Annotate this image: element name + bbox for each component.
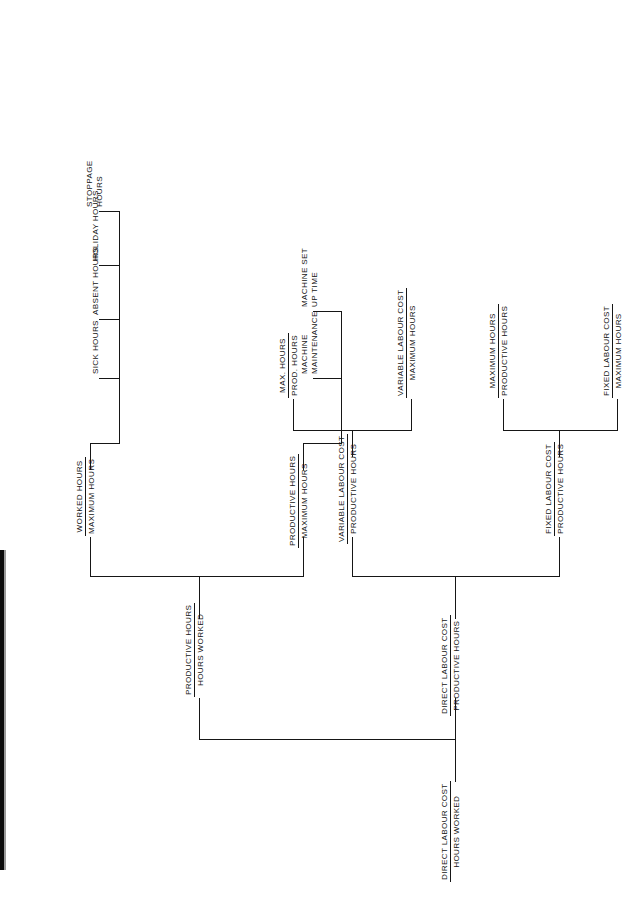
connector-fixed-to-max-prod bbox=[503, 399, 504, 431]
node-fixed-max-denominator: MAXIMUM HOURS bbox=[613, 304, 624, 398]
node-direct-productive-numerator: DIRECT LABOUR COST bbox=[440, 615, 451, 716]
leaf-machine-maintenance-line1: MACHINE bbox=[300, 311, 310, 374]
connector-worked-hours-bus bbox=[90, 443, 119, 444]
connector-fixed-to-fixed-max bbox=[617, 399, 618, 431]
leaf-machine-maintenance-line2: MAINTENANCE bbox=[310, 311, 320, 374]
node-fixed-productive-denominator: PRODUCTIVE HOURS bbox=[555, 442, 566, 536]
node-productive-hours-denominator: HOURS WORKED bbox=[195, 603, 206, 697]
connector-root-bus bbox=[199, 739, 456, 740]
node-variable-labour-cost-productive-hours[interactable]: VARIABLE LABOUR COST PRODUCTIVE HOURS bbox=[337, 434, 359, 544]
connector-variable-to-var-max bbox=[411, 399, 412, 431]
connector-productive-to-worked-hours bbox=[90, 537, 91, 577]
node-root-direct-labour-cost-hours-worked[interactable]: DIRECT LABOUR COST HOURS WORKED bbox=[440, 781, 462, 882]
connector-productive-bus bbox=[90, 576, 304, 577]
node-worked-hours-maximum-hours[interactable]: WORKED HOURS MAXIMUM HOURS bbox=[75, 457, 97, 536]
leaf-stoppage-hours-line2: HOURS bbox=[95, 160, 105, 207]
connector-leaf-absent-hours bbox=[99, 319, 120, 320]
connector-productive-max-bus bbox=[303, 443, 341, 444]
node-productive-max-numerator: PRODUCTIVE HOURS bbox=[288, 454, 299, 548]
connector-leaf-holiday-hours bbox=[99, 265, 120, 266]
node-direct-productive-denominator: PRODUCTIVE HOURS bbox=[451, 615, 462, 716]
connector-fixed-bus bbox=[503, 430, 618, 431]
leaf-sick-hours[interactable]: SICK HOURS bbox=[91, 320, 101, 374]
connector-leaf-sick-hours bbox=[99, 378, 120, 379]
node-root-numerator: DIRECT LABOUR COST bbox=[440, 781, 451, 882]
leaf-sick-hours-line1: SICK HOURS bbox=[91, 320, 101, 374]
node-variable-max-numerator: VARIABLE LABOUR COST bbox=[396, 288, 407, 398]
connector-worked-hours-rail bbox=[119, 212, 120, 444]
leaf-stoppage-hours-line1: STOPPAGE bbox=[85, 160, 95, 207]
node-fixed-labour-cost-maximum-hours[interactable]: FIXED LABOUR COST MAXIMUM HOURS bbox=[602, 304, 624, 398]
connector-direct-to-fixed bbox=[559, 537, 560, 577]
node-maximum-productive-denominator: PRODUCTIVE HOURS bbox=[499, 304, 510, 398]
node-fixed-productive-numerator: FIXED LABOUR COST bbox=[544, 442, 555, 536]
node-variable-labour-cost-maximum-hours[interactable]: VARIABLE LABOUR COST MAXIMUM HOURS bbox=[396, 288, 418, 398]
node-variable-productive-numerator: VARIABLE LABOUR COST bbox=[337, 434, 348, 544]
node-productive-hours-numerator: PRODUCTIVE HOURS bbox=[184, 603, 195, 697]
node-fixed-labour-cost-productive-hours[interactable]: FIXED LABOUR COST PRODUCTIVE HOURS bbox=[544, 442, 566, 536]
node-productive-max-denominator: MAXIMUM HOURS bbox=[299, 454, 310, 548]
leaf-machine-set-up-time-line2: UP TIME bbox=[310, 248, 320, 307]
connector-root-to-branch-productive bbox=[199, 698, 200, 740]
connector-direct-productive-stem bbox=[455, 577, 456, 619]
node-fixed-max-numerator: FIXED LABOUR COST bbox=[602, 304, 613, 398]
node-variable-max-denominator: MAXIMUM HOURS bbox=[407, 288, 418, 398]
node-max-prod-numerator: MAX. HOURS bbox=[278, 333, 289, 398]
leaf-machine-set-up-time-line1: MACHINE SET bbox=[300, 248, 310, 307]
node-worked-hours-numerator: WORKED HOURS bbox=[75, 457, 86, 536]
node-variable-productive-denominator: PRODUCTIVE HOURS bbox=[348, 434, 359, 544]
node-productive-hours-maximum-hours[interactable]: PRODUCTIVE HOURS MAXIMUM HOURS bbox=[288, 454, 310, 548]
connector-root-stem bbox=[455, 740, 456, 782]
node-max-hours-prod-hours[interactable]: MAX. HOURS PROD. HOURS bbox=[278, 333, 300, 398]
leaf-machine-maintenance[interactable]: MACHINE MAINTENANCE bbox=[300, 311, 320, 374]
leaf-machine-set-up-time[interactable]: MACHINE SET UP TIME bbox=[300, 248, 320, 307]
connector-leaf-stoppage-hours bbox=[99, 211, 120, 212]
node-direct-labour-cost-productive-hours[interactable]: DIRECT LABOUR COST PRODUCTIVE HOURS bbox=[440, 615, 462, 716]
connector-direct-productive-bus bbox=[352, 576, 560, 577]
node-productive-hours-hours-worked[interactable]: PRODUCTIVE HOURS HOURS WORKED bbox=[184, 603, 206, 697]
leaf-stoppage-hours[interactable]: STOPPAGE HOURS bbox=[85, 160, 105, 207]
connector-variable-bus bbox=[293, 430, 412, 431]
node-worked-hours-denominator: MAXIMUM HOURS bbox=[86, 457, 97, 536]
node-max-prod-denominator: PROD. HOURS bbox=[289, 333, 300, 398]
connector-leaf-machine-maintenance bbox=[313, 378, 342, 379]
node-maximum-productive-numerator: MAXIMUM HOURS bbox=[488, 304, 499, 398]
node-maximum-hours-productive-hours[interactable]: MAXIMUM HOURS PRODUCTIVE HOURS bbox=[488, 304, 510, 398]
connector-variable-to-max-prod bbox=[293, 399, 294, 431]
node-root-denominator: HOURS WORKED bbox=[451, 781, 462, 882]
